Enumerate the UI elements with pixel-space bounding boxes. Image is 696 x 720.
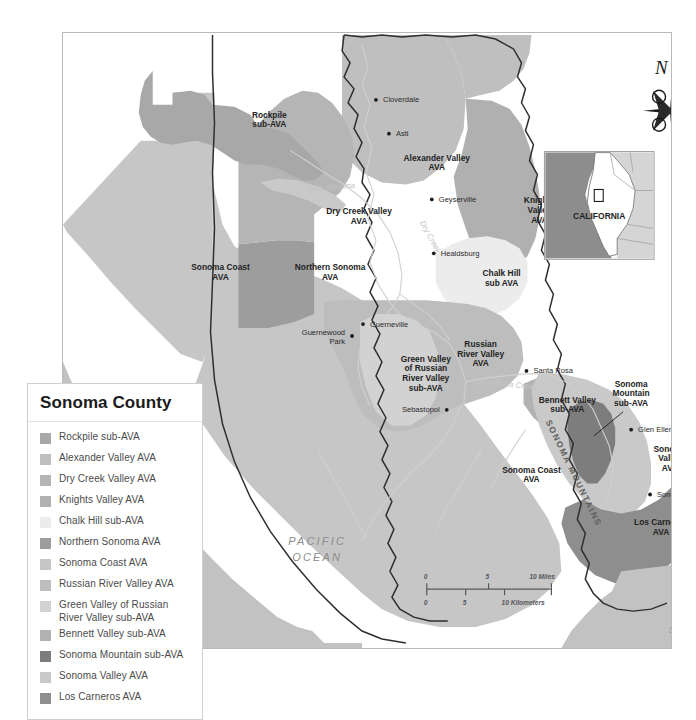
legend-item-label: Northern Sonoma AVA: [59, 536, 161, 549]
inset-california-label: CALIFORNIA: [573, 211, 625, 221]
compass-north-letter: N: [654, 57, 669, 78]
city-label: Geyserville: [439, 195, 476, 204]
ava-label-line: sub-AVA: [252, 119, 286, 129]
scale-miles-0: 0: [424, 573, 428, 580]
legend-swatch: [40, 651, 51, 662]
legend-swatch: [40, 693, 51, 704]
city-label: Santa Rosa: [533, 366, 573, 375]
legend-item-label: Bennett Valley sub-AVA: [59, 628, 166, 641]
california-inset-map[interactable]: CALIFORNIA: [544, 152, 654, 260]
legend-item[interactable]: Sonoma Coast AVA: [28, 555, 202, 576]
city-dot-icon: [387, 132, 391, 136]
legend-item[interactable]: Knights Valley AVA: [28, 492, 202, 513]
ava-label-line: Russian: [464, 339, 497, 349]
legend-item-label: Alexander Valley AVA: [59, 452, 156, 465]
city-dot-icon: [445, 408, 449, 412]
legend-swatch: [40, 496, 51, 507]
scale-miles-5: 5: [486, 573, 490, 580]
ava-label-sonoma-mountain: SonomaMountainsub-AVA: [613, 379, 650, 408]
ava-label-chalk-hill: Chalk Hillsub AVA: [483, 268, 521, 288]
ava-label-line: Chalk Hill: [483, 268, 521, 278]
ava-label-line: Bennett Valley: [539, 395, 596, 405]
ava-label-line: sub-AVA: [550, 404, 584, 414]
map-legend[interactable]: Sonoma County Rockpile sub-AVAAlexander …: [27, 383, 203, 720]
legend-item-label: Sonoma Mountain sub-AVA: [59, 649, 183, 662]
city-label: Sebastopol: [402, 405, 440, 414]
scale-miles-10: 10 Miles: [529, 573, 555, 580]
legend-item-label: Chalk Hill sub-AVA: [59, 515, 144, 528]
city-dot-icon: [629, 428, 633, 432]
legend-swatch: [40, 580, 51, 591]
ava-label-line: AVA: [472, 358, 488, 368]
legend-item-label: Green Valley of Russian River Valley sub…: [59, 599, 194, 624]
legend-item-label: Rockpile sub-AVA: [59, 431, 140, 444]
city-label: Sonoma: [657, 490, 671, 499]
ava-label-line: Rockpile: [252, 110, 287, 120]
ava-label-line: Sonoma: [615, 379, 648, 389]
legend-item[interactable]: Green Valley of Russian River Valley sub…: [28, 597, 202, 626]
scale-km-5: 5: [463, 599, 467, 606]
ava-label-line: River Valley: [402, 373, 449, 383]
city-dot-icon: [361, 322, 365, 326]
legend-item[interactable]: Russian River Valley AVA: [28, 576, 202, 597]
northern-sonoma-ava: [238, 240, 314, 328]
pacific-ocean-line-2: OCEAN: [292, 551, 342, 563]
legend-item[interactable]: Alexander Valley AVA: [28, 450, 202, 471]
city-label: Cloverdale: [383, 95, 419, 104]
legend-item-label: Sonoma Coast AVA: [59, 557, 148, 570]
legend-item[interactable]: Chalk Hill sub-AVA: [28, 513, 202, 534]
ava-label-line: AVA: [653, 527, 669, 537]
legend-swatch: [40, 538, 51, 549]
legend-swatch: [40, 454, 51, 465]
ava-label-line: AVA: [662, 463, 671, 473]
city-dot-icon: [350, 334, 354, 338]
legend-item-label: Knights Valley AVA: [59, 494, 144, 507]
legend-item-list: Rockpile sub-AVAAlexander Valley AVADry …: [28, 422, 202, 719]
legend-item[interactable]: Los Carneros AVA: [28, 689, 202, 710]
ava-label-line: Green Valley: [401, 354, 452, 364]
city-label: Guernewood: [302, 328, 345, 337]
ava-label-line: sub AVA: [485, 278, 518, 288]
pacific-ocean-line-1: PACIFIC: [288, 535, 346, 547]
legend-item-label: Russian River Valley AVA: [59, 578, 174, 591]
legend-item-label: Los Carneros AVA: [59, 691, 141, 704]
ava-label-line: Northern Sonoma: [295, 262, 366, 272]
legend-item-label: Dry Creek Valley AVA: [59, 473, 156, 486]
city-dot-icon: [648, 493, 652, 497]
ava-label-line: Dry Creek Valley: [326, 206, 392, 216]
city-label: Asti: [396, 129, 409, 138]
legend-item[interactable]: Northern Sonoma AVA: [28, 534, 202, 555]
ava-label-line: Sonoma: [654, 444, 671, 454]
ava-label-line: Alexander Valley: [404, 153, 471, 163]
legend-item-label: Sonoma Valley AVA: [59, 670, 148, 683]
ava-label-line: Sonoma Coast: [502, 465, 561, 475]
ava-label-line: River Valley: [457, 349, 504, 359]
ava-label-line: AVA: [523, 474, 539, 484]
legend-swatch: [40, 475, 51, 486]
ava-label-line: Valley: [658, 453, 671, 463]
city-label: Park: [330, 337, 346, 346]
legend-item[interactable]: Sonoma Valley AVA: [28, 668, 202, 689]
ava-label-line: of Russian: [404, 363, 447, 373]
ava-label-line: sub-AVA: [409, 383, 443, 393]
scale-km-0: 0: [424, 599, 428, 606]
city-label: Glen Ellen: [638, 425, 671, 434]
bay-line-1: San Pablo: [669, 624, 671, 635]
ava-label-line: AVA: [212, 272, 228, 282]
legend-swatch: [40, 672, 51, 683]
ava-label-line: AVA: [429, 162, 445, 172]
legend-item[interactable]: Sonoma Mountain sub-AVA: [28, 647, 202, 668]
city-dot-icon: [525, 369, 529, 373]
legend-swatch: [40, 559, 51, 570]
ava-label-line: Los Carneros: [634, 517, 671, 527]
legend-swatch: [40, 630, 51, 641]
legend-item[interactable]: Bennett Valley sub-AVA: [28, 626, 202, 647]
ava-label-line: AVA: [351, 216, 367, 226]
legend-item[interactable]: Dry Creek Valley AVA: [28, 471, 202, 492]
ava-label-line: Sonoma Coast: [191, 262, 250, 272]
city-dot-icon: [430, 198, 434, 202]
scale-km-10: 10 Kilometers: [502, 599, 545, 606]
legend-item[interactable]: Rockpile sub-AVA: [28, 429, 202, 450]
city-dot-icon: [374, 98, 378, 102]
city-label: Healdsburg: [441, 249, 480, 258]
